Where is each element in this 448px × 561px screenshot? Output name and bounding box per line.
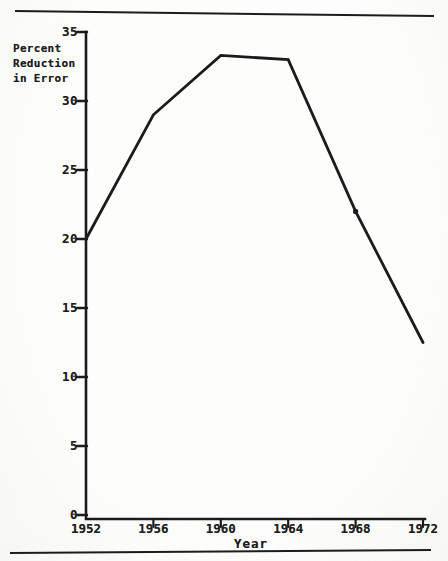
y-tick-label: 25 xyxy=(0,163,78,177)
x-axis-title: Year xyxy=(221,536,281,551)
chart-tick-marks xyxy=(77,32,423,527)
chart-axes xyxy=(86,32,425,519)
x-tick-label: 1956 xyxy=(131,522,175,536)
y-tick-label: 20 xyxy=(0,232,78,246)
chart-series xyxy=(86,55,423,342)
data-point-marker xyxy=(353,209,358,214)
x-tick-label: 1960 xyxy=(199,522,243,536)
y-tick-label: 5 xyxy=(0,439,78,453)
y-tick-label: 15 xyxy=(0,301,78,315)
y-tick-label: 10 xyxy=(0,370,78,384)
y-tick-label: 30 xyxy=(0,94,78,108)
y-tick-label: 0 xyxy=(0,508,78,522)
x-tick-label: 1952 xyxy=(64,522,108,536)
series-line xyxy=(86,55,423,342)
x-tick-label: 1968 xyxy=(334,522,378,536)
y-axis-title: Percent Reduction in Error xyxy=(13,41,75,86)
scanned-book-page: Percent Reduction in Error Year 05101520… xyxy=(0,0,448,561)
x-tick-label: 1964 xyxy=(266,522,310,536)
y-tick-label: 35 xyxy=(0,25,78,39)
x-tick-label: 1972 xyxy=(401,522,445,536)
axis-lines xyxy=(86,32,425,519)
